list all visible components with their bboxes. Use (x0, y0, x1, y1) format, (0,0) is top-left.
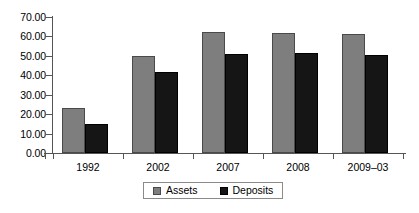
legend-swatch-icon (153, 187, 161, 195)
bar-deposits-200903 (365, 55, 388, 153)
x-axis-tick-label: 2007 (193, 161, 263, 173)
y-axis-tick-label: 50.00 (2, 51, 46, 62)
bar-chart: 70.0060.0050.0040.0030.0020.0010.000.00 … (0, 0, 419, 213)
y-axis-tick-label: 20.00 (2, 109, 46, 120)
bar-deposits-1992 (85, 124, 108, 153)
legend-item-label: Assets (166, 185, 198, 196)
y-axis-tick-label: 0.00 (2, 148, 46, 159)
bar-assets-1992 (62, 108, 85, 153)
x-axis-line (44, 153, 406, 154)
bar-deposits-2007 (225, 54, 248, 153)
x-axis-tick-label: 1992 (53, 161, 123, 173)
y-axis-tick-label: 70.00 (2, 12, 46, 23)
y-axis-tick-label: 30.00 (2, 90, 46, 101)
bar-assets-200903 (342, 34, 365, 153)
y-axis-tick-label: 10.00 (2, 129, 46, 140)
legend-item-label: Deposits (233, 185, 274, 196)
x-axis-tick (333, 153, 334, 159)
bar-deposits-2008 (295, 53, 318, 153)
y-axis-tick-label: 40.00 (2, 70, 46, 81)
chart-legend: AssetsDeposits (143, 182, 283, 199)
bar-assets-2008 (272, 33, 295, 153)
x-axis-tick (263, 153, 264, 159)
bar-deposits-2002 (155, 72, 178, 153)
legend-swatch-icon (220, 187, 228, 195)
legend-item-assets[interactable]: Assets (153, 185, 198, 196)
bar-assets-2007 (202, 32, 225, 153)
x-axis-tick-label: 2002 (123, 161, 193, 173)
x-axis-tick-label: 2008 (263, 161, 333, 173)
x-axis-tick (53, 153, 54, 159)
x-axis-tick (403, 153, 404, 159)
y-axis-tick-label: 60.00 (2, 31, 46, 42)
bar-assets-2002 (132, 56, 155, 153)
legend-item-deposits[interactable]: Deposits (220, 185, 274, 196)
x-axis-tick-label: 2009–03 (333, 161, 403, 173)
plot-area (53, 17, 403, 153)
x-axis-tick (123, 153, 124, 159)
x-axis-tick (193, 153, 194, 159)
x-axis-origin-tick (45, 153, 46, 159)
